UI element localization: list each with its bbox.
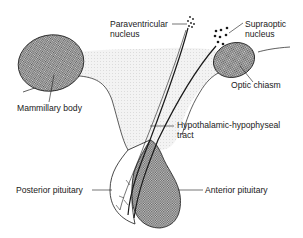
paraventricular-nucleus-dots [187,16,195,28]
label-mammillary-body: Mammillary body [17,103,82,113]
supraoptic-nucleus-dots [214,27,229,46]
label-optic-chiasm: Optic chiasm [231,80,281,90]
label-line: tract [177,130,280,140]
label-anterior-pituitary: Anterior pituitary [205,185,268,195]
label-line: nucleus [110,29,168,39]
label-line: nucleus [245,29,286,39]
optic-chiasm [208,37,259,83]
label-line: Supraoptic [245,19,286,29]
label-hypothalamic-hypophyseal-tract: Hypothalamic-hypophyseal tract [177,120,280,140]
label-supraoptic-nucleus: Supraoptic nucleus [245,19,286,39]
label-line: Hypothalamic-hypophyseal [177,120,280,130]
label-posterior-pituitary: Posterior pituitary [16,185,83,195]
label-paraventricular-nucleus: Paraventricular nucleus [110,19,168,39]
mammillary-body [13,29,89,97]
label-line: Paraventricular [110,19,168,29]
